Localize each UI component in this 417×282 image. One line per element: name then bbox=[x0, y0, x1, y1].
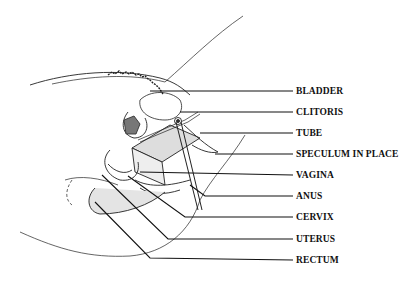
label-clitoris: CLITORIS bbox=[296, 107, 343, 117]
diagram-canvas: BLADDER CLITORIS TUBE SPECULUM IN PLACE … bbox=[0, 0, 417, 282]
label-rectum: RECTUM bbox=[296, 255, 339, 265]
label-speculum-in-place: SPECULUM IN PLACE bbox=[296, 149, 399, 159]
label-anus: ANUS bbox=[296, 191, 322, 201]
label-cervix: CERVIX bbox=[296, 212, 334, 222]
label-uterus: UTERUS bbox=[296, 234, 335, 244]
anatomy-drawing bbox=[0, 0, 417, 282]
label-tube: TUBE bbox=[296, 128, 322, 138]
label-bladder: BLADDER bbox=[296, 86, 343, 96]
label-vagina: VAGINA bbox=[296, 170, 334, 180]
